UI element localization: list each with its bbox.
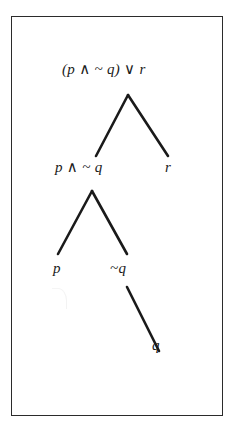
tree-node-r: r (165, 160, 171, 175)
tree-node-p: p (53, 261, 61, 276)
tree-node-negation-q: ~q (110, 261, 126, 276)
figure-page: (p ∧ ~ q) ∨ r p ∧ ~ q r p ~q q (0, 0, 239, 433)
tree-node-root: (p ∧ ~ q) ∨ r (62, 62, 146, 77)
tree-node-q: q (152, 338, 160, 353)
tree-node-conjunction: p ∧ ~ q (55, 160, 102, 175)
